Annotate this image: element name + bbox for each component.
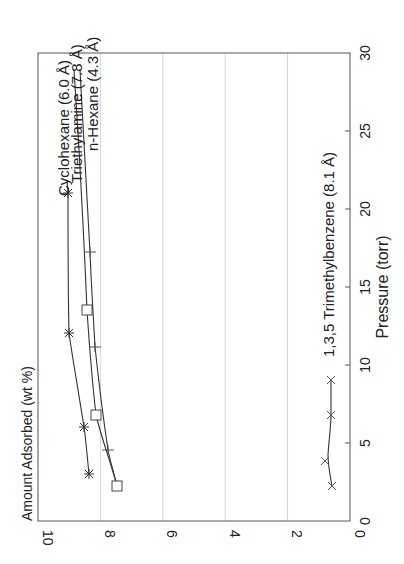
x-tick-15: 15 [357, 279, 373, 295]
label-nhexane: n-Hexane (4.3 Å) [84, 37, 101, 151]
x-tick-30: 30 [357, 45, 373, 61]
x-tick-5: 5 [357, 439, 373, 447]
y-axis-title: Amount Adsorbed (wt %) [19, 366, 35, 521]
label-triethylamine: Triethylamine (7.8 Å) [68, 44, 85, 183]
trimethylbenzene-line [328, 380, 332, 486]
x-tick-0: 0 [357, 517, 373, 525]
y-tick-6: 6 [164, 530, 180, 538]
gridlines [100, 53, 287, 521]
y-tick-8: 8 [102, 530, 118, 538]
wt-tick-labels: 10 8 6 4 2 0 [40, 530, 368, 546]
triethylamine-markers [84, 247, 114, 455]
adsorption-chart: 10 8 6 4 2 0 0 5 10 15 20 25 30 Pressure… [0, 0, 404, 564]
y-tick-4: 4 [227, 530, 243, 538]
x-tick-20: 20 [357, 201, 373, 217]
pressure-ticks [345, 131, 350, 443]
pressure-tick-labels: 0 5 10 15 20 25 30 [357, 45, 373, 525]
x-tick-25: 25 [357, 123, 373, 139]
x-axis-title: Pressure (torr) [374, 235, 391, 338]
series-labels: Cyclohexane (6.0 Å) Triethylamine (7.8 Å… [55, 37, 337, 357]
y-tick-10: 10 [40, 530, 56, 546]
label-trimethylbenzene: 1,3,5 Trimethylbenzene (8.1 Å) [320, 152, 337, 357]
x-tick-10: 10 [357, 357, 373, 373]
series-lines [67, 70, 332, 486]
trimethylbenzene-markers [321, 376, 336, 490]
y-tick-2: 2 [289, 530, 305, 538]
cyclohexane-line [67, 180, 89, 474]
y-tick-0: 0 [352, 530, 368, 538]
